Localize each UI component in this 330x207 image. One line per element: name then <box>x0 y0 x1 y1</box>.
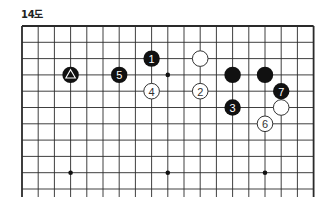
white-stone-icon <box>192 51 208 67</box>
black-stone-5: 5 <box>111 67 127 83</box>
star-point-icon <box>68 170 73 175</box>
black-stone-icon <box>257 67 273 83</box>
move-number: 2 <box>197 86 203 98</box>
white-stone-icon <box>273 100 289 116</box>
white-stone-2: 2 <box>192 83 208 99</box>
move-number: 1 <box>149 53 155 65</box>
black-stone-icon <box>224 67 240 83</box>
star-point-icon <box>166 170 171 175</box>
move-number: 4 <box>149 86 155 98</box>
move-number: 6 <box>262 118 268 130</box>
move-number: 3 <box>230 102 236 114</box>
black-stone-3: 3 <box>224 99 240 115</box>
move-number: 5 <box>116 69 122 81</box>
black-stone <box>62 67 78 83</box>
black-stone <box>257 67 273 83</box>
white-stone-4: 4 <box>144 83 160 99</box>
white-stone-6: 6 <box>257 116 273 132</box>
black-stone-7: 7 <box>273 83 289 99</box>
move-number: 7 <box>278 86 284 98</box>
white-stone <box>192 51 208 67</box>
black-stone-1: 1 <box>143 50 159 66</box>
white-stone <box>273 100 289 116</box>
black-stone <box>224 67 240 83</box>
go-board: 5142376 <box>0 0 330 207</box>
star-point-icon <box>166 73 171 78</box>
star-point-icon <box>263 170 268 175</box>
